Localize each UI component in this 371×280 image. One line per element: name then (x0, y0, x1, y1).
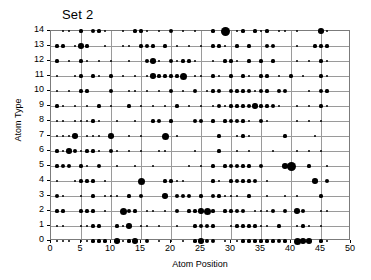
data-point (198, 208, 204, 214)
data-point (319, 89, 323, 93)
data-point (85, 89, 88, 92)
data-point (229, 179, 232, 182)
data-point (146, 30, 148, 32)
data-point (79, 164, 82, 167)
data-point (169, 119, 172, 122)
data-point (241, 74, 244, 77)
x-axis-tick-mark (290, 240, 291, 243)
data-point (68, 240, 70, 242)
data-point (283, 209, 287, 213)
data-point (139, 44, 142, 47)
data-point (79, 74, 82, 77)
data-point (229, 74, 232, 77)
data-point (85, 179, 88, 182)
data-point (115, 224, 118, 227)
data-point (325, 44, 328, 47)
x-axis-tick-label: 30 (220, 243, 240, 253)
data-point (283, 89, 287, 93)
data-point (55, 59, 58, 62)
data-point (217, 134, 220, 137)
y-axis-tick-mark (47, 30, 50, 31)
data-point (296, 30, 298, 32)
data-point (229, 164, 233, 168)
data-point (193, 119, 197, 123)
data-point (265, 74, 268, 77)
data-point (62, 30, 64, 32)
data-point (139, 194, 143, 198)
y-axis-tick-label: 11 (22, 69, 44, 79)
data-point (55, 44, 58, 47)
data-point (265, 29, 268, 32)
data-point (79, 29, 82, 32)
data-point (199, 194, 202, 197)
data-point (319, 59, 322, 62)
data-point (193, 89, 197, 93)
gridline-vertical (291, 31, 292, 239)
data-point (151, 119, 154, 122)
data-point (187, 59, 190, 62)
data-point (319, 104, 322, 107)
x-axis-label: Atom Position (50, 259, 350, 269)
data-point (182, 240, 184, 242)
data-point (277, 224, 280, 227)
data-point (157, 119, 161, 123)
x-axis-tick-label: 15 (130, 243, 150, 253)
data-point (241, 104, 244, 107)
x-axis-tick-label: 25 (190, 243, 210, 253)
x-axis-tick-mark (170, 240, 171, 243)
data-point (241, 224, 244, 227)
data-point (241, 89, 244, 92)
data-point (91, 179, 94, 182)
data-point (325, 179, 329, 183)
data-point (235, 179, 239, 183)
data-point (259, 119, 263, 123)
data-point (241, 134, 244, 137)
data-point (145, 59, 149, 63)
data-point (108, 133, 114, 139)
data-point (133, 29, 136, 32)
data-point (300, 238, 306, 244)
scatter-plot-figure: Set 2 Atom Type 051015202530354045500123… (0, 0, 371, 280)
y-axis-tick-mark (47, 165, 50, 166)
data-point (211, 44, 214, 47)
data-point (211, 209, 214, 212)
data-point (247, 59, 250, 62)
data-point (229, 119, 233, 123)
x-axis-tick-label: 35 (250, 243, 270, 253)
y-axis-tick-label: 13 (22, 39, 44, 49)
data-point (175, 209, 179, 213)
data-point (169, 29, 173, 33)
data-point (126, 223, 132, 229)
data-point (61, 209, 64, 212)
x-axis-tick-mark (110, 240, 111, 243)
data-point (85, 44, 88, 47)
data-point (235, 164, 239, 168)
data-point (86, 240, 88, 242)
data-point (91, 239, 94, 242)
data-point (62, 240, 64, 242)
data-point (187, 194, 191, 198)
y-axis-tick-label: 5 (22, 159, 44, 169)
x-axis-tick-label: 0 (40, 243, 60, 253)
data-point (318, 28, 324, 34)
data-point (122, 30, 124, 32)
data-point (139, 29, 142, 32)
data-point (120, 208, 127, 215)
data-point (271, 59, 274, 62)
data-point (224, 240, 226, 242)
data-point (97, 224, 100, 227)
data-point (211, 239, 215, 243)
data-point (235, 119, 239, 123)
data-point (162, 193, 168, 199)
data-point (194, 30, 196, 32)
data-point (199, 224, 203, 228)
data-point (127, 194, 130, 197)
data-point (235, 209, 239, 213)
data-point (68, 30, 70, 32)
data-point (127, 104, 130, 107)
gridline-horizontal (51, 136, 349, 137)
data-point (73, 149, 77, 153)
x-axis-tick-mark (80, 240, 81, 243)
data-point (241, 119, 244, 122)
x-axis-tick-mark (320, 240, 321, 243)
